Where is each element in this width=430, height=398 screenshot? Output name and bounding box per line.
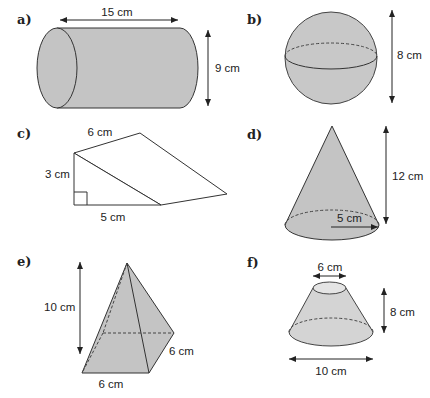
shape-d-cone: d) 5 cm 12 cm [247, 126, 423, 240]
frustum-top-face [313, 282, 346, 294]
cone-height-label: 12 cm [392, 170, 423, 182]
frustum-top-label: 6 cm [318, 261, 343, 273]
pyramid-body [82, 263, 174, 373]
cylinder-body [57, 28, 198, 108]
cylinder-end-face [37, 28, 77, 108]
solids-diagram: a) 15 cm 9 cm b) 8 cm c) 6 cm 3 cm 5 cm … [0, 0, 430, 398]
frustum-base-label: 10 cm [315, 365, 346, 377]
prism-length-label: 6 cm [88, 126, 113, 138]
pyramid-width-label: 6 cm [99, 378, 124, 390]
prism-height-label: 3 cm [45, 168, 70, 180]
shape-b-sphere: b) 8 cm [247, 10, 422, 104]
pyramid-depth-label: 6 cm [169, 345, 194, 357]
frustum-body [289, 288, 373, 346]
shape-f-label: f) [247, 255, 259, 270]
shape-d-label: d) [247, 127, 262, 142]
shape-e-square-pyramid: e) 10 cm 6 cm 6 cm [17, 254, 194, 390]
pyramid-height-label: 10 cm [44, 301, 75, 313]
shape-c-label: c) [17, 126, 31, 141]
shape-c-triangular-prism: c) 6 cm 3 cm 5 cm [17, 126, 227, 223]
sphere-body [285, 12, 377, 104]
cone-radius-label: 5 cm [337, 212, 362, 224]
cone-body [285, 126, 379, 240]
prism-base-label: 5 cm [101, 211, 126, 223]
shape-a-label: a) [17, 12, 32, 27]
cylinder-diameter-label: 9 cm [215, 62, 240, 74]
shape-f-frustum: f) 6 cm 8 cm 10 cm [247, 255, 415, 377]
shape-a-cylinder: a) 15 cm 9 cm [17, 6, 240, 108]
shape-b-label: b) [247, 12, 262, 27]
sphere-diameter-label: 8 cm [397, 49, 422, 61]
frustum-height-label: 8 cm [390, 306, 415, 318]
cylinder-length-label: 15 cm [101, 6, 132, 18]
shape-e-label: e) [17, 254, 31, 269]
